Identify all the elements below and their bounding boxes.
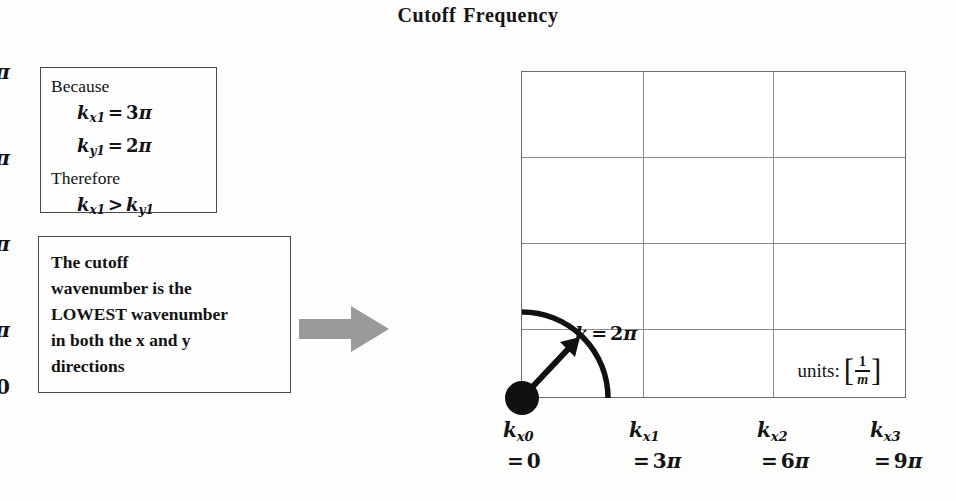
units-fraction: [ 1 m ]: [844, 355, 882, 387]
kx1-op: =: [108, 102, 123, 123]
kx0-sub: x0: [517, 429, 534, 444]
equation-comparison: kx1>ky1: [51, 191, 208, 224]
y-tick-label-ky2: ky2=4π: [0, 232, 10, 258]
cutoff-line-2: wavenumber is the: [51, 275, 284, 301]
kx1-axis-sub: x1: [643, 429, 660, 444]
ky1-value: 2: [126, 135, 139, 156]
fraction-numerator: 1: [859, 355, 866, 370]
cmp-left-sub: x1: [89, 203, 105, 217]
kx1-axis-op: =: [633, 449, 650, 473]
slide-canvas: CutoffFrequency Because kx1=3π ky1=2π Th…: [0, 0, 956, 501]
ky1-op: =: [108, 135, 123, 156]
k-annotation-value: 2: [610, 322, 623, 344]
equation-kx1: kx1=3π: [51, 99, 208, 132]
kx3-unit: π: [908, 449, 923, 473]
units-legend: units: [ 1 m ]: [774, 345, 905, 397]
title-word-frequency: Frequency: [463, 4, 558, 26]
cutoff-statement-textbox: The cutoff wavenumber is the LOWEST wave…: [38, 236, 291, 393]
therefore-label: Therefore: [51, 166, 208, 191]
cmp-right-sub: y1: [139, 203, 154, 217]
kx3-value: 9: [894, 449, 908, 473]
kx2-var: k: [757, 418, 771, 442]
left-bracket-icon: [: [844, 359, 854, 384]
k-annotation-op: =: [591, 322, 607, 344]
x-tick-label-kx3: kx3 =9π: [870, 418, 922, 474]
kx0-value: 0: [527, 449, 541, 473]
title-word-cutoff: Cutoff: [398, 4, 457, 26]
cutoff-arc-group: [508, 58, 708, 258]
kx2-op: =: [761, 449, 778, 473]
kx0-line2: =0: [503, 449, 541, 474]
x-tick-label-kx0: kx0 =0: [503, 418, 541, 474]
kx1-axis-unit: π: [667, 449, 682, 473]
kx0-op: =: [507, 449, 524, 473]
ky3-unit: π: [0, 146, 10, 170]
kx1-value: 3: [126, 102, 139, 123]
right-bracket-icon: ]: [871, 359, 881, 384]
cmp-op: >: [108, 194, 123, 215]
kx1-axis-value: 3: [653, 449, 667, 473]
ky2-unit: π: [0, 232, 10, 256]
k-annotation-var: k: [575, 322, 588, 344]
ky4-unit: π: [0, 60, 10, 84]
equation-ky1: ky1=2π: [51, 132, 208, 165]
kx3-op: =: [874, 449, 891, 473]
cutoff-line-1: The cutoff: [51, 249, 284, 275]
kx1-line2: =3π: [629, 449, 681, 474]
fraction-one-over-m: 1 m: [855, 355, 870, 387]
y-tick-label-ky3: ky3=6π: [0, 146, 10, 172]
k-annotation-unit: π: [623, 322, 637, 344]
ky0-value: 0: [0, 375, 10, 399]
kx1-axis-var: k: [629, 418, 643, 442]
origin-dot: [505, 381, 539, 415]
x-tick-label-kx1: kx1 =3π: [629, 418, 681, 474]
y-tick-label-ky4: ky4=8π: [0, 60, 10, 86]
cutoff-line-4: in both the x and y: [51, 327, 284, 353]
cutoff-line-5: directions: [51, 353, 284, 379]
y-tick-label-ky1: ky1=2π: [0, 318, 10, 344]
x-tick-label-kx2: kx2 =6π: [757, 418, 809, 474]
kx1-unit: π: [139, 102, 152, 123]
ky1-axis-unit: π: [0, 318, 10, 342]
kx1-var: k: [77, 102, 89, 123]
kx2-line2: =6π: [757, 449, 809, 474]
cutoff-line-3: LOWEST wavenumber: [51, 301, 284, 327]
fraction-denominator: m: [857, 372, 868, 387]
kx0-var: k: [503, 418, 517, 442]
cmp-left-var: k: [77, 194, 89, 215]
ky1-unit: π: [138, 135, 151, 156]
kx1-sub: x1: [89, 111, 105, 125]
kx3-line2: =9π: [870, 449, 922, 474]
cmp-right-var: k: [126, 194, 138, 215]
ky1-sub: y1: [89, 145, 104, 159]
k-value-annotation: k=2π: [575, 322, 637, 344]
kx3-var: k: [870, 418, 884, 442]
units-label: units:: [798, 360, 840, 382]
kx3-sub: x3: [884, 429, 901, 444]
because-label: Because: [51, 74, 208, 99]
y-tick-label-ky0: ky0=0: [0, 375, 10, 401]
ky1-var: k: [77, 135, 89, 156]
right-arrow-icon: [299, 306, 389, 352]
kx2-unit: π: [795, 449, 810, 473]
kx2-value: 6: [781, 449, 795, 473]
page-title: CutoffFrequency: [0, 4, 956, 27]
kx2-sub: x2: [771, 429, 788, 444]
because-textbox: Because kx1=3π ky1=2π Therefore kx1>ky1: [40, 67, 217, 213]
